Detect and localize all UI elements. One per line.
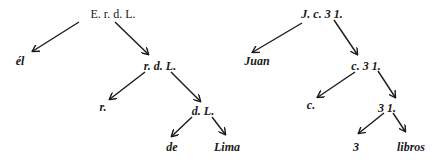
left-leaf-lima: Lima bbox=[214, 141, 240, 153]
left-tree-arrow-1 bbox=[115, 22, 148, 54]
left-node-rdl: r. d. L. bbox=[144, 60, 176, 72]
right-node-31: 3 1. bbox=[378, 102, 396, 114]
right-tree-arrow-4 bbox=[359, 113, 384, 133]
left-leaf-de: de bbox=[166, 141, 177, 153]
right-tree-arrow-2 bbox=[318, 72, 355, 97]
left-node-dl: d. L. bbox=[192, 105, 214, 117]
right-tree-arrow-1 bbox=[334, 20, 357, 54]
right-tree-arrow-5 bbox=[393, 113, 405, 131]
left-tree-arrow-4 bbox=[172, 117, 192, 136]
right-tree-arrow-0 bbox=[253, 23, 302, 52]
right-node-c31: c. 3 1. bbox=[351, 60, 380, 72]
left-tree-arrow-5 bbox=[212, 117, 225, 134]
parse-tree-diagram: E. r. d. L. él r. d. L. r. d. L. de Lima… bbox=[0, 0, 445, 163]
right-leaf-libros: libros bbox=[397, 141, 425, 153]
left-tree-arrow-0 bbox=[33, 22, 79, 51]
left-root-node: E. r. d. L. bbox=[91, 8, 136, 20]
right-leaf-3: 3 bbox=[353, 141, 359, 153]
left-tree-arrow-2 bbox=[110, 72, 145, 99]
right-leaf-juan: Juan bbox=[244, 55, 269, 67]
left-leaf-el: él bbox=[16, 55, 25, 67]
left-node-r: r. bbox=[99, 101, 106, 113]
tree-edges bbox=[0, 0, 445, 163]
right-node-c: c. bbox=[307, 99, 315, 111]
right-root-node: J. c. 3 1. bbox=[301, 8, 342, 20]
left-tree-arrow-3 bbox=[171, 72, 200, 101]
right-tree-arrow-3 bbox=[378, 71, 395, 97]
